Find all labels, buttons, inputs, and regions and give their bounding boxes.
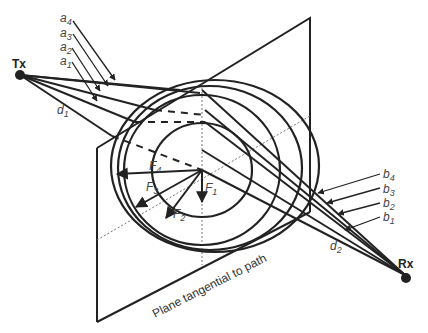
a-label-leaders [72,21,115,101]
f2-label: F2 [173,207,185,223]
tx-node [15,70,25,80]
plane-bottom-edge [97,212,310,322]
f4-label: F4 [149,159,161,175]
zone-radius-arrows [117,170,202,218]
tx-rays [20,75,200,136]
b4-label: b4 [383,167,395,183]
rx-node [401,273,411,283]
f3-label: F3 [146,180,158,196]
a1-label: a1 [60,54,72,70]
f1-label: F1 [205,181,217,197]
b-label-leaders [318,174,380,230]
a4-label: a4 [60,11,72,27]
tx-label: Tx [12,57,26,71]
f2-arrow [166,170,202,218]
b1-label: b1 [383,210,395,226]
rx-label: Rx [398,257,414,271]
fresnel-zone-diagram: Tx Rx a4 a3 a2 a1 d1 b4 b3 b2 b1 d2 F1 F… [0,0,428,333]
